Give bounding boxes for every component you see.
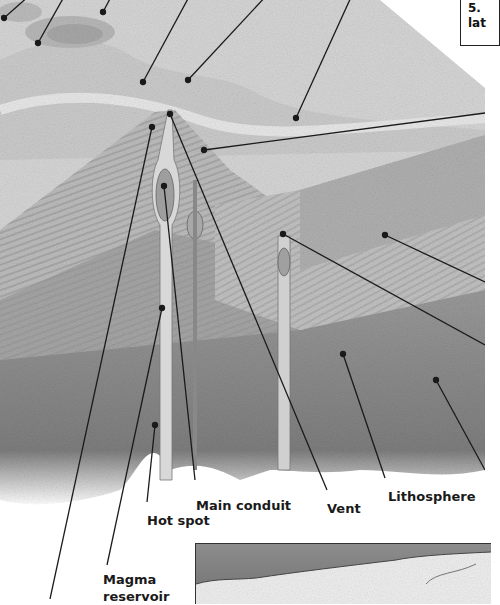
callout-line-1: 5. [468,1,499,16]
callout-line-2: lat [468,16,499,31]
callout-box: 5. lat [460,0,500,46]
label-magma-reservoir-line2: reservoir [103,589,169,605]
inset-photo [195,543,491,604]
label-hot-spot: Hot spot [147,513,210,529]
label-lithosphere: Lithosphere [388,489,475,505]
label-vent: Vent [327,501,361,517]
label-magma-reservoir-line1: Magma [103,572,156,588]
label-main-conduit: Main conduit [196,498,291,514]
